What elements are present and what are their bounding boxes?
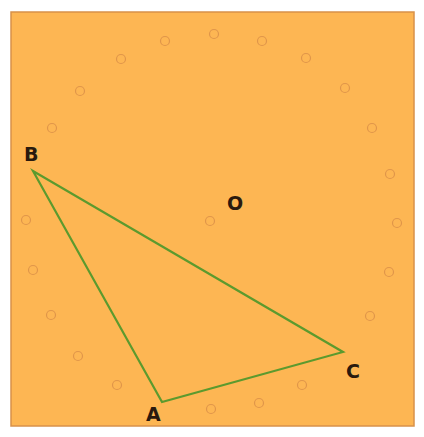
center-label-o: O xyxy=(227,192,243,214)
vertex-label-a: A xyxy=(146,403,161,425)
vertex-label-b: B xyxy=(24,143,38,165)
vertex-label-c: C xyxy=(346,360,360,382)
geometry-diagram: A B C O xyxy=(0,0,424,437)
